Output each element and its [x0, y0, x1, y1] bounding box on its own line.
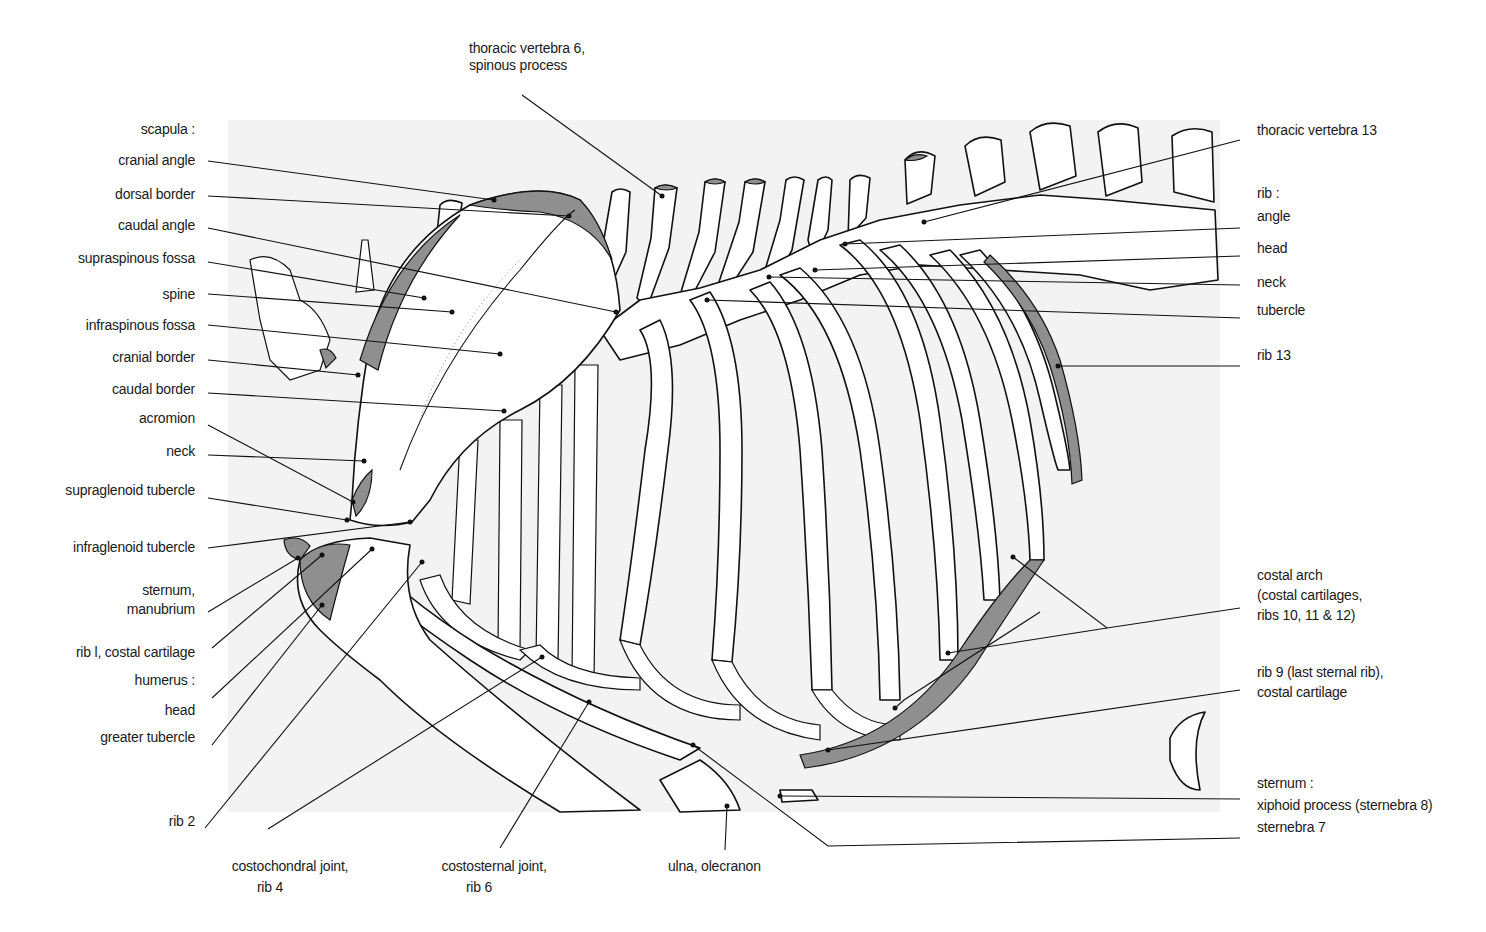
label-xiphoid-process: xiphoid process (sternebra 8) — [1257, 797, 1433, 814]
label-thoracic-vertebra-6: thoracic vertebra 6, spinous process — [469, 40, 585, 74]
label-humerus-head: head — [165, 702, 195, 719]
label-line: (costal cartilages, — [1257, 587, 1362, 604]
label-rib1-costal-cartilage: rib l, costal cartilage — [76, 644, 195, 661]
label-thoracic-vertebra-13: thoracic vertebra 13 — [1257, 122, 1377, 139]
label-supraspinous-fossa: supraspinous fossa — [78, 250, 195, 267]
label-ulna-olecranon: ulna, olecranon — [668, 858, 761, 875]
label-line: costal cartilage — [1257, 684, 1383, 701]
label-supraglenoid-tubercle: supraglenoid tubercle — [65, 482, 195, 499]
label-costochondral-joint: costochondral joint, rib 4 — [220, 858, 360, 896]
label-costosternal-joint: costosternal joint, rib 6 — [424, 858, 564, 896]
label-line: sternum, — [127, 582, 195, 599]
label-rib-neck: neck — [1257, 274, 1286, 291]
label-caudal-border: caudal border — [112, 381, 195, 398]
label-dorsal-border: dorsal border — [115, 186, 195, 203]
label-scapula-neck: neck — [166, 443, 195, 460]
label-spine: spine — [163, 286, 195, 303]
label-line: spinous process — [469, 57, 585, 74]
label-costal-arch: costal arch (costal cartilages, ribs 10,… — [1257, 567, 1362, 624]
label-acromion: acromion — [139, 410, 195, 427]
label-humerus-heading: humerus : — [135, 672, 195, 689]
label-cranial-border: cranial border — [112, 349, 195, 366]
label-greater-tubercle: greater tubercle — [100, 729, 195, 746]
label-line: rib 4 — [220, 879, 360, 896]
label-line: ribs 10, 11 & 12) — [1257, 607, 1362, 624]
label-infraspinous-fossa: infraspinous fossa — [86, 317, 195, 334]
label-sternum-manubrium: sternum, manubrium — [127, 582, 195, 618]
label-caudal-angle: caudal angle — [118, 217, 195, 234]
label-rib-angle: angle — [1257, 208, 1290, 225]
label-rib2: rib 2 — [169, 813, 195, 830]
label-line: rib 6 — [424, 879, 564, 896]
label-rib-heading: rib : — [1257, 185, 1279, 202]
label-line: manubrium — [127, 601, 195, 618]
thorax-skeleton-illustration — [0, 0, 1486, 932]
label-sternum-heading: sternum : — [1257, 775, 1314, 792]
label-cranial-angle: cranial angle — [118, 152, 195, 169]
label-sternebra-7: sternebra 7 — [1257, 819, 1326, 836]
label-scapula-heading: scapula : — [141, 121, 195, 138]
label-line: costochondral joint, — [220, 858, 360, 875]
label-rib13: rib 13 — [1257, 347, 1291, 364]
label-rib-head: head — [1257, 240, 1287, 257]
label-line: costosternal joint, — [424, 858, 564, 875]
label-rib-tubercle: tubercle — [1257, 302, 1305, 319]
label-line: costal arch — [1257, 567, 1362, 584]
label-line: rib 9 (last sternal rib), — [1257, 664, 1383, 681]
label-rib9-costal-cartilage: rib 9 (last sternal rib), costal cartila… — [1257, 664, 1383, 701]
label-line: thoracic vertebra 6, — [469, 40, 585, 57]
label-infraglenoid-tubercle: infraglenoid tubercle — [73, 539, 195, 556]
